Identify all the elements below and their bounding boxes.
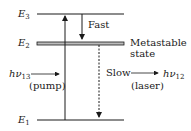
e2-level-bar: [37, 42, 124, 45]
e1-label: E1: [18, 114, 30, 129]
e2-label: E2: [18, 37, 30, 52]
pump-label: (pump): [29, 80, 66, 91]
slow-label: Slow: [106, 67, 131, 78]
metastable-label: Metastable: [130, 37, 187, 48]
laser-label: (laser): [131, 80, 164, 91]
fast-label: Fast: [88, 19, 109, 30]
state-label: state: [130, 48, 155, 59]
laser-photon-label: hν12: [163, 68, 184, 83]
e3-label: E3: [18, 8, 30, 23]
pump-photon-label: hν13: [9, 68, 30, 83]
